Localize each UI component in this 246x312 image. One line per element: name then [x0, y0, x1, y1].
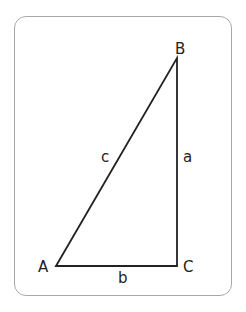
triangle-abc: [56, 58, 177, 266]
triangle-diagram: A B C a b c: [0, 0, 246, 312]
side-label-b: b: [118, 269, 128, 287]
vertex-label-a: A: [38, 258, 49, 276]
side-label-c: c: [101, 148, 109, 166]
vertex-label-b: B: [175, 40, 185, 58]
vertex-label-c: C: [183, 258, 193, 276]
side-label-a: a: [183, 148, 192, 166]
